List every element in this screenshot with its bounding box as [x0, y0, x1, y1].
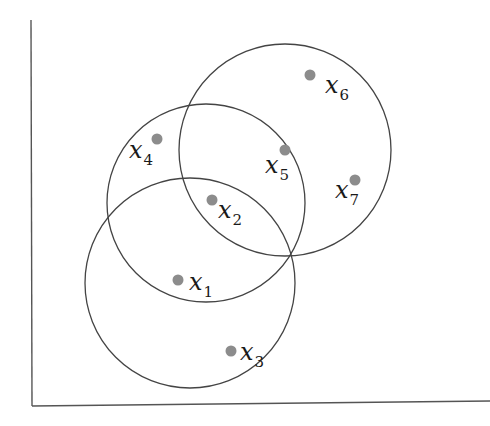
point-labels: x1x2x3x4x5x6x7	[129, 71, 359, 371]
point-x5	[280, 145, 291, 156]
point-x3	[226, 346, 237, 357]
label-x6: x6	[325, 71, 349, 104]
point-x6	[305, 70, 316, 81]
data-points	[152, 70, 361, 357]
point-x1	[173, 275, 184, 286]
clustering-diagram: x1x2x3x4x5x6x7	[0, 0, 490, 426]
point-x4	[152, 134, 163, 145]
point-x2	[207, 195, 218, 206]
y-axis	[31, 20, 32, 406]
x-axis	[32, 401, 490, 406]
label-x4: x4	[129, 136, 153, 169]
label-x2: x2	[218, 196, 242, 229]
point-x7	[350, 175, 361, 186]
label-x1: x1	[189, 268, 213, 301]
label-x5: x5	[265, 151, 289, 184]
label-x3: x3	[240, 338, 264, 371]
circle-middle	[107, 104, 305, 302]
